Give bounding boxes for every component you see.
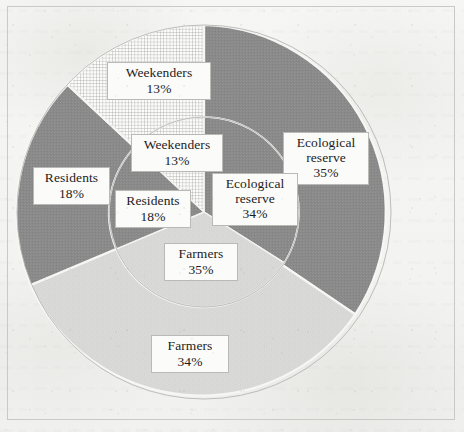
slice-label-name: Farmers (158, 338, 222, 354)
slice-label-inner-weekenders: Weekenders 13% (131, 134, 223, 172)
slice-label-value: 13% (114, 81, 204, 97)
pie-chart-figure: Weekenders 13% Ecological reserve 35% Re… (0, 0, 464, 432)
slice-label-outer-residents: Residents 18% (33, 167, 110, 205)
slice-label-name: Weekenders (114, 65, 204, 81)
slice-label-outer-farmers: Farmers 34% (151, 335, 229, 373)
slice-label-name: Farmers (171, 246, 231, 262)
slice-label-name: Ecological reserve (219, 176, 291, 206)
slice-label-value: 13% (138, 153, 216, 169)
slice-label-value: 34% (219, 206, 291, 222)
slice-label-name: Ecological reserve (290, 135, 362, 165)
slice-label-name: Residents (40, 170, 103, 186)
slice-label-name: Residents (122, 193, 184, 209)
slice-label-name: Weekenders (138, 137, 216, 153)
slice-label-inner-farmers: Farmers 35% (164, 243, 238, 281)
slice-label-value: 35% (290, 165, 362, 181)
slice-label-outer-weekenders: Weekenders 13% (107, 62, 211, 100)
slice-label-inner-ecological-reserve: Ecological reserve 34% (212, 173, 298, 226)
slice-label-value: 35% (171, 262, 231, 278)
slice-label-value: 18% (122, 209, 184, 225)
slice-label-value: 34% (158, 354, 222, 370)
slice-label-value: 18% (40, 186, 103, 202)
slice-label-inner-residents: Residents 18% (115, 190, 191, 228)
